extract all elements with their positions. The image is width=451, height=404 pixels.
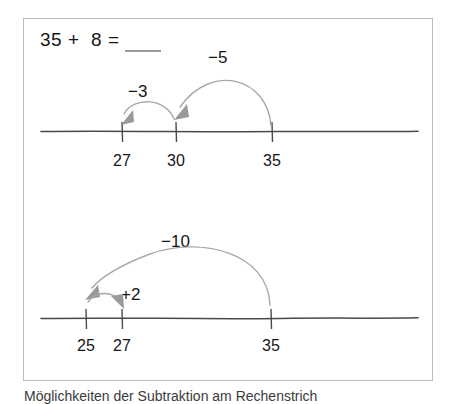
figure-caption: Möglichkeiten der Subtraktion am Rechens… [24,388,317,404]
line1-tick-label-35: 35 [263,152,281,170]
figure-frame [23,18,433,381]
line2-tick-label-25: 25 [77,337,95,355]
line2-tick-label-35: 35 [262,337,280,355]
equation-text: 35 + 8 = ___ [40,29,161,51]
line1-tick-label-30: 30 [167,152,185,170]
line1-jump-minus3-label: −3 [128,82,147,102]
line2-jump-plus2-label: +2 [121,285,140,305]
line2-tick-label-27: 27 [113,337,131,355]
line1-tick-label-27: 27 [113,152,131,170]
answer-blank: ___ [125,29,161,52]
line2-jump-minus10-label: −10 [161,232,190,252]
line1-jump-minus5-label: −5 [208,48,227,68]
equation-expression: 35 + 8 = [40,29,125,50]
